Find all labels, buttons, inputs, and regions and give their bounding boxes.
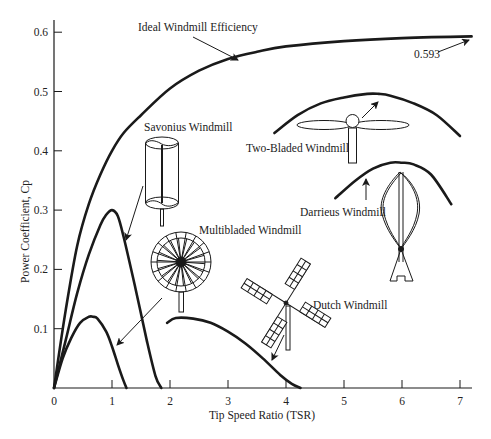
savonius-windmill-icon [146, 137, 179, 226]
power-coefficient-chart: 0.10.20.30.40.50.6 01234567 Tip Speed Ra… [0, 0, 491, 439]
two-bladed-windmill-icon [297, 115, 409, 164]
x-ticks: 01234567 [51, 380, 463, 407]
label-savonius: Savonius Windmill [144, 121, 232, 133]
y-tick-label: 0.3 [34, 204, 49, 216]
curves [54, 36, 472, 388]
curve-savonius-windmill [54, 210, 161, 388]
label-betz-limit: 0.593 [414, 48, 440, 60]
x-axis-label: Tip Speed Ratio (TSR) [209, 409, 315, 422]
curve-two-bladed-windmill [274, 94, 460, 136]
x-tick-label: 4 [283, 395, 289, 407]
darrieus-windmill-icon [381, 172, 419, 281]
x-tick-label: 6 [399, 395, 405, 407]
label-dutch: Dutch Windmill [313, 299, 387, 311]
y-tick-label: 0.2 [34, 263, 49, 275]
label-two-bladed: Two-Bladed Windmill [246, 142, 349, 154]
x-tick-label: 2 [167, 395, 173, 407]
curve-multibladed-windmill [54, 316, 127, 388]
y-tick-label: 0.5 [34, 86, 49, 98]
arrow-betz [438, 40, 469, 52]
y-ticks: 0.10.20.30.40.50.6 [34, 26, 62, 335]
curve-darrieus-windmill [335, 162, 451, 204]
x-tick-label: 3 [225, 395, 231, 407]
x-tick-label: 1 [109, 395, 115, 407]
arrow-ideal [193, 37, 238, 60]
y-axis-label: Power Coefficient, Cp [19, 180, 32, 283]
arrow-savonius [126, 186, 143, 240]
x-tick-label: 5 [341, 395, 347, 407]
x-tick-label: 7 [457, 395, 463, 407]
arrow-two-bladed [362, 102, 378, 118]
label-multibladed: Multibladed Windmill [199, 224, 302, 236]
y-tick-label: 0.1 [34, 323, 49, 335]
y-tick-label: 0.4 [34, 145, 49, 157]
y-tick-label: 0.6 [34, 26, 49, 38]
label-ideal: Ideal Windmill Efficiency [138, 21, 258, 34]
axes: 0.10.20.30.40.50.6 01234567 Tip Speed Ra… [19, 20, 472, 422]
x-tick-label: 0 [51, 395, 57, 407]
label-darrieus: Darrieus Windmill [300, 206, 386, 218]
